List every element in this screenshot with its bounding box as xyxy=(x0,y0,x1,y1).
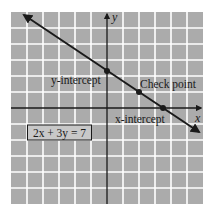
y-intercept-point xyxy=(104,68,110,74)
y-axis-label: y xyxy=(111,10,118,24)
x-axis-label: x xyxy=(194,111,201,125)
check-point-label: Check point xyxy=(140,78,197,91)
x-intercept-point xyxy=(160,105,166,111)
x-intercept-label: x-intercept xyxy=(115,113,166,126)
equation-label: 2x + 3y = 7 xyxy=(33,127,86,140)
y-intercept-label: y-intercept xyxy=(51,74,102,87)
graph-figure: y x y-intercept Check point x-intercept … xyxy=(0,0,213,217)
